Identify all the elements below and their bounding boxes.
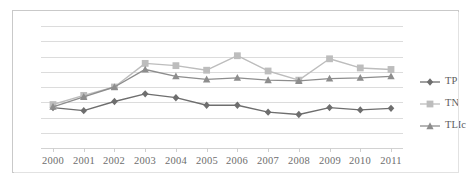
x-axis-line [41,148,403,149]
x-tick-label-2011: 2011 [371,155,411,166]
data-point [234,102,241,109]
x-tick-mark [207,148,208,152]
data-point [357,65,364,72]
legend-marker-square-icon [419,96,441,108]
data-point [111,98,118,105]
legend-label-tp: TP [445,75,457,86]
x-tick-mark [268,148,269,152]
data-point [326,55,333,62]
legend-item-tp[interactable]: TP [419,69,469,91]
x-tick-mark [53,148,54,152]
x-tick-mark [145,148,146,152]
plot-area [41,26,403,148]
data-point [234,52,241,59]
data-point [326,104,333,111]
legend-item-tlic[interactable]: TLIc [419,113,469,135]
legend-marker-triangle-icon [419,118,441,130]
data-point [388,105,395,112]
x-tick-mark [237,148,238,152]
data-point [265,108,272,115]
data-point [173,62,180,69]
x-tick-mark [84,148,85,152]
data-point [203,102,210,109]
chart-frame: 2000200120022003200420052006200720082009… [12,10,459,173]
series-tn [50,52,395,108]
data-point [357,106,364,113]
x-tick-mark [299,148,300,152]
chart-legend: TP TN TLIc [419,69,469,135]
data-point [173,94,180,101]
x-tick-mark [114,148,115,152]
legend-marker-diamond-icon [419,74,441,86]
legend-item-tn[interactable]: TN [419,91,469,113]
legend-label-tlic: TLIc [445,119,466,130]
x-tick-mark [360,148,361,152]
x-tick-mark [330,148,331,152]
x-tick-mark [176,148,177,152]
data-point [265,68,272,75]
series-tlic [49,66,394,110]
data-point [80,107,87,114]
data-point [388,66,395,73]
x-tick-mark [391,148,392,152]
data-point [296,111,303,118]
chart-figure: 2000200120022003200420052006200720082009… [0,0,469,183]
series-tp [50,90,395,118]
data-point [203,67,210,74]
legend-label-tn: TN [445,97,459,108]
data-point [142,90,149,97]
series-layer [41,26,403,148]
